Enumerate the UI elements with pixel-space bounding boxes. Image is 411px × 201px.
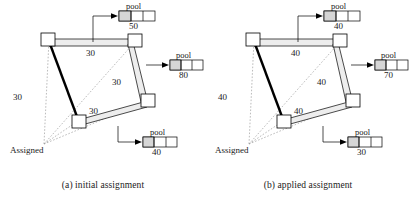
pool-value-bottom-b: 30 (357, 148, 366, 157)
caption-a: (a) initial assignment (0, 180, 206, 190)
edge-label-right-b: 40 (317, 78, 326, 87)
pool-label-bottom-b: pool (355, 128, 370, 137)
pool-label-right-b: pool (381, 51, 396, 60)
figure-container: pool 50 pool 80 pool 40 30 30 30 30 Assi… (0, 0, 411, 201)
pool-value-right-a: 80 (179, 71, 188, 80)
caption-b: (b) applied assignment (205, 180, 411, 190)
pool-label-right-a: pool (176, 51, 191, 60)
assigned-edge-b (255, 44, 284, 122)
pool-box-right-a (170, 60, 203, 70)
node-bottom-left-b (277, 115, 291, 128)
node-bottom-left-a (72, 115, 86, 128)
assigned-edge-a (50, 44, 79, 122)
edge-label-top-a: 30 (86, 49, 95, 58)
node-top-right-b (333, 34, 347, 47)
node-top-right-a (128, 34, 142, 47)
pool-value-top-a: 50 (129, 22, 138, 31)
pool-value-top-b: 40 (334, 22, 343, 31)
diagram-b (205, 0, 411, 201)
edge-label-bottom-b: 40 (294, 107, 303, 116)
edge-label-left-b: 40 (218, 93, 227, 102)
pool-box-bottom-a (143, 137, 177, 147)
node-top-left-a (41, 33, 55, 46)
node-bottom-right-b (346, 94, 360, 107)
pool-box-bottom-b (348, 137, 382, 147)
pool-connector-bottom-a (118, 126, 142, 145)
edge-label-right-a: 30 (112, 78, 121, 87)
panel-applied-assignment: pool 40 pool 70 pool 30 40 40 40 40 Assi… (205, 0, 411, 201)
pool-box-right-b (375, 60, 408, 70)
assigned-label-a: Assigned (10, 146, 44, 155)
assigned-label-b: Assigned (215, 146, 249, 155)
pool-value-right-b: 70 (384, 71, 393, 80)
edge-label-left-a: 30 (13, 93, 22, 102)
pool-box-top-b (324, 11, 360, 21)
pool-label-bottom-a: pool (150, 128, 165, 137)
pool-connector-top-a (93, 13, 118, 42)
edge-label-top-b: 40 (291, 49, 300, 58)
panel-initial-assignment: pool 50 pool 80 pool 40 30 30 30 30 Assi… (0, 0, 206, 201)
pool-box-top-a (119, 11, 155, 21)
diagram-a (0, 0, 206, 201)
node-bottom-right-a (141, 94, 155, 107)
pool-label-top-a: pool (126, 2, 141, 11)
pool-connector-top-b (298, 13, 323, 42)
node-top-left-b (246, 33, 260, 46)
edge-label-bottom-a: 30 (89, 107, 98, 116)
pool-connector-right-a (146, 62, 169, 68)
pool-value-bottom-a: 40 (152, 148, 161, 157)
pool-connector-right-b (351, 62, 374, 68)
pool-label-top-b: pool (331, 2, 346, 11)
pool-connector-bottom-b (323, 126, 347, 145)
